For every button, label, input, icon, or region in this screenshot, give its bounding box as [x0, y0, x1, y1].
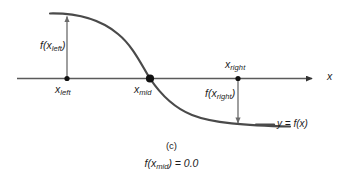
figure-part-caption: (c) — [0, 140, 343, 151]
x-left-point — [64, 76, 69, 81]
label-f-x-right-func: f(x — [205, 87, 217, 99]
label-x-mid-subscript: mid — [139, 88, 151, 97]
caption-equation-tail: ) = 0.0 — [168, 157, 198, 169]
label-x-right-subscript: right — [230, 63, 245, 72]
caption-equation-func: f(x — [145, 157, 157, 169]
label-f-x-right-tail: ) — [232, 87, 236, 99]
figure-container: f(xleft) xleft xmid xright f(xright) y =… — [0, 0, 343, 177]
label-f-x-right-subscript: right — [217, 92, 232, 101]
x-mid-root-point — [146, 74, 154, 82]
label-curve-equation: y = f(x) — [277, 119, 308, 129]
function-curve — [50, 13, 290, 126]
label-f-x-left-func: f(x — [40, 39, 52, 51]
label-x-axis-name: x — [327, 71, 332, 82]
caption-equation-subscript: mid — [156, 162, 168, 171]
label-x-right: xright — [225, 59, 245, 70]
label-f-x-left: f(xleft) — [40, 40, 66, 51]
label-x-left-subscript: left — [60, 88, 70, 97]
label-f-x-right: f(xright) — [205, 88, 235, 99]
label-x-left: xleft — [55, 84, 71, 95]
label-f-x-left-subscript: left — [52, 44, 62, 53]
label-f-x-left-tail: ) — [62, 39, 66, 51]
x-right-point — [235, 76, 240, 81]
label-x-mid: xmid — [134, 84, 152, 95]
figure-caption-equation: f(xmid) = 0.0 — [0, 157, 343, 169]
